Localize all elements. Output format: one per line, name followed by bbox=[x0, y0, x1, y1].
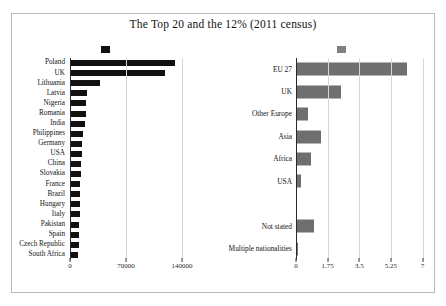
category-label-row: UK bbox=[14, 68, 68, 78]
category-label-row: Not stated bbox=[216, 215, 295, 237]
category-label: Italy bbox=[52, 211, 68, 218]
bar bbox=[71, 141, 82, 147]
category-label: Brazil bbox=[47, 191, 68, 198]
bar bbox=[71, 100, 86, 106]
bar-row bbox=[71, 189, 210, 199]
gridline bbox=[182, 58, 183, 260]
bar bbox=[71, 80, 100, 86]
category-label-row: Pakistan bbox=[14, 220, 68, 230]
left-bar-series bbox=[71, 58, 210, 260]
category-label: Not stated bbox=[262, 223, 295, 230]
bar-row bbox=[71, 240, 210, 250]
bar-row bbox=[71, 179, 210, 189]
bar bbox=[71, 242, 79, 248]
category-label-row: Slovakia bbox=[14, 169, 68, 179]
category-label-row: Philippines bbox=[14, 129, 68, 139]
category-label-row: Lithuania bbox=[14, 78, 68, 88]
legend-swatch-top-20 bbox=[101, 46, 110, 53]
bar bbox=[297, 108, 308, 121]
category-label-row: Poland bbox=[14, 58, 68, 68]
right-bar-series bbox=[297, 58, 428, 260]
bar-row bbox=[71, 169, 210, 179]
bar-row bbox=[297, 170, 428, 192]
bar-row bbox=[71, 119, 210, 129]
bar bbox=[71, 161, 81, 167]
bar bbox=[71, 232, 79, 238]
left-chart-panel: PolandUKLithuaniaLatviaNigeriaRomaniaInd… bbox=[14, 58, 216, 286]
gridline bbox=[126, 58, 127, 260]
tick-label: 0 bbox=[68, 262, 72, 270]
bar-row bbox=[297, 103, 428, 125]
category-label-row: Nigeria bbox=[14, 98, 68, 108]
gridline bbox=[391, 58, 392, 260]
bar bbox=[71, 131, 83, 137]
category-label-row: UK bbox=[216, 80, 295, 102]
bar bbox=[297, 152, 311, 165]
bar bbox=[297, 242, 298, 255]
category-label-row: Multiple nationalities bbox=[216, 238, 295, 260]
bar bbox=[71, 211, 80, 217]
gridline bbox=[359, 58, 360, 260]
category-label: Spain bbox=[49, 231, 68, 238]
category-label: France bbox=[45, 181, 68, 188]
category-label: Lithuania bbox=[37, 80, 68, 87]
bar bbox=[71, 60, 175, 66]
category-label: EU 27 bbox=[273, 66, 295, 73]
chart-title: The Top 20 and the 12% (2011 census) bbox=[12, 18, 434, 30]
category-label-row: Latvia bbox=[14, 88, 68, 98]
category-label: UK bbox=[281, 88, 295, 95]
bar-row bbox=[71, 129, 210, 139]
category-label: Africa bbox=[273, 155, 295, 162]
bar bbox=[71, 121, 85, 127]
bar-row bbox=[71, 149, 210, 159]
category-label: Germany bbox=[38, 140, 68, 147]
bar-row bbox=[297, 148, 428, 170]
gridline bbox=[423, 58, 424, 260]
category-label: USA bbox=[51, 150, 68, 157]
chart-figure: The Top 20 and the 12% (2011 census) Pol… bbox=[11, 13, 435, 293]
right-chart-panel: EU 27UKOther EuropeAsiaAfricaUSANot stat… bbox=[216, 58, 434, 286]
gridline bbox=[328, 58, 329, 260]
category-label-row: USA bbox=[14, 149, 68, 159]
category-label-row: Hungary bbox=[14, 199, 68, 209]
bar-row bbox=[71, 220, 210, 230]
bar bbox=[297, 175, 301, 188]
tick-label: 0 bbox=[294, 262, 298, 270]
bar-row bbox=[71, 98, 210, 108]
bar bbox=[71, 90, 87, 96]
category-label: Nigeria bbox=[43, 100, 68, 107]
left-category-labels: PolandUKLithuaniaLatviaNigeriaRomaniaInd… bbox=[14, 58, 68, 260]
bar-row bbox=[71, 199, 210, 209]
category-label-row: India bbox=[14, 119, 68, 129]
bar-row bbox=[71, 78, 210, 88]
category-label-row: EU 27 bbox=[216, 58, 295, 80]
category-label-row: China bbox=[14, 159, 68, 169]
bar bbox=[297, 85, 341, 98]
right-plot-area bbox=[296, 58, 428, 260]
category-label-row: Germany bbox=[14, 139, 68, 149]
bar-row bbox=[297, 238, 428, 260]
left-x-axis-ticks: 070000140000 bbox=[14, 262, 216, 276]
bar-row bbox=[71, 58, 210, 68]
bar bbox=[71, 201, 80, 207]
category-label: South Africa bbox=[28, 251, 68, 258]
category-label: Other Europe bbox=[252, 110, 295, 117]
bar-row bbox=[71, 139, 210, 149]
bar-row bbox=[297, 193, 428, 215]
bar-row bbox=[297, 215, 428, 237]
tick-label: 1.75 bbox=[322, 262, 334, 270]
category-label: Pakistan bbox=[41, 221, 68, 228]
right-category-labels: EU 27UKOther EuropeAsiaAfricaUSANot stat… bbox=[216, 58, 295, 260]
category-label-row: USA bbox=[216, 170, 295, 192]
category-label-row: Asia bbox=[216, 125, 295, 147]
bar bbox=[71, 111, 86, 117]
bar bbox=[297, 130, 321, 143]
bar bbox=[71, 222, 79, 228]
category-label-row bbox=[216, 193, 295, 215]
tick-label: 140000 bbox=[172, 262, 193, 270]
bar bbox=[71, 70, 165, 76]
category-label: Asia bbox=[278, 133, 295, 140]
category-label: UK bbox=[55, 70, 68, 77]
bar-row bbox=[71, 250, 210, 260]
category-label: USA bbox=[277, 178, 295, 185]
